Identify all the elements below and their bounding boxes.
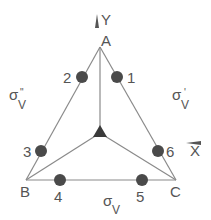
sigma-superscript: " bbox=[20, 88, 24, 98]
point-1 bbox=[111, 71, 123, 83]
point-3 bbox=[35, 145, 47, 157]
point-label-3: 3 bbox=[23, 144, 31, 159]
point-label-2: 2 bbox=[63, 70, 71, 85]
vertex-label-b: B bbox=[20, 184, 30, 199]
vertex-label-a: A bbox=[101, 33, 111, 48]
sigma-v-prime-label: σ V ' bbox=[172, 87, 202, 115]
point-label-1: 1 bbox=[127, 70, 135, 85]
vertex-label-c: C bbox=[170, 184, 181, 199]
plane-line-b bbox=[26, 133, 100, 180]
y-axis-arrow-icon bbox=[95, 14, 99, 28]
sigma-symbol: σ bbox=[9, 87, 18, 102]
point-4 bbox=[54, 174, 66, 186]
sigma-subscript: V bbox=[181, 99, 189, 111]
point-5 bbox=[136, 174, 148, 186]
c3-axis-triangle-icon bbox=[93, 125, 107, 137]
y-axis-label: Y bbox=[101, 12, 111, 27]
sigma-superscript: ' bbox=[184, 88, 186, 98]
point-label-4: 4 bbox=[54, 189, 62, 204]
point-6 bbox=[152, 145, 164, 157]
point-label-6: 6 bbox=[166, 144, 174, 159]
sigma-subscript: V bbox=[112, 204, 120, 216]
sigma-v-double-prime-label: σ V " bbox=[9, 87, 39, 115]
sigma-symbol: σ bbox=[172, 87, 181, 102]
sigma-v-label: σ V bbox=[103, 193, 133, 220]
mirror-plane-lines bbox=[26, 47, 176, 180]
point-2 bbox=[76, 71, 88, 83]
edge-ac bbox=[100, 47, 176, 180]
sigma-subscript: V bbox=[18, 99, 26, 111]
outer-triangle bbox=[26, 47, 176, 180]
sigma-symbol: σ bbox=[103, 193, 112, 208]
x-axis-label: X bbox=[190, 143, 200, 158]
point-label-5: 5 bbox=[136, 189, 144, 204]
plane-line-c bbox=[100, 133, 176, 180]
